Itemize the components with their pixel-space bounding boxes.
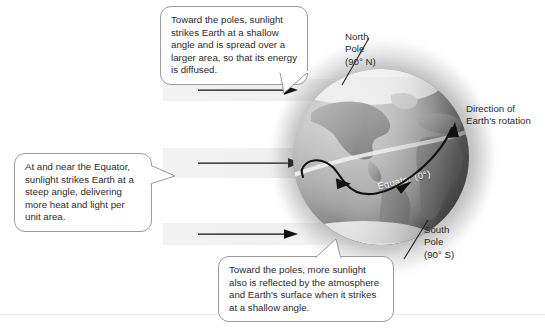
callout-tail-poles-shallow-angle (278, 71, 312, 95)
diagram-canvas: Equator (0°) Toward the poles, sunlight … (0, 0, 545, 330)
north-pole-label: North Pole (90° N) (345, 31, 376, 68)
south-pole-label: South Pole (90° S) (424, 224, 454, 261)
callout-poles-reflection: Toward the poles, more sunlight also is … (218, 256, 394, 322)
callout-tail-poles-reflection (310, 238, 344, 260)
callout-text: At and near the Equator, sunlight strike… (25, 161, 134, 222)
callout-equator-steep-angle: At and near the Equator, sunlight strike… (14, 153, 152, 232)
callout-text: Toward the poles, sunlight strikes Earth… (171, 14, 297, 75)
callout-text: Toward the poles, more sunlight also is … (229, 264, 379, 313)
rotation-direction-label: Direction of Earth's rotation (466, 103, 531, 128)
callout-tail-equator-steep-angle (149, 163, 177, 189)
